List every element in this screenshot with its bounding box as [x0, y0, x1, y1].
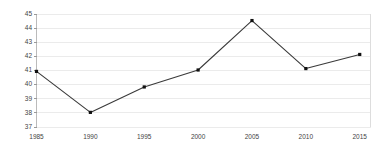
x-tick-label: 2000	[191, 133, 206, 140]
plot-background	[0, 0, 385, 148]
x-tick-label: 1995	[137, 133, 152, 140]
x-tick-label: 2005	[245, 133, 260, 140]
y-axis-tick-labels: 373839404142434445	[25, 10, 33, 130]
x-tick-label: 2010	[299, 133, 314, 140]
y-tick-label: 41	[25, 66, 33, 73]
y-tick-label: 45	[25, 10, 33, 17]
data-point-marker	[358, 53, 361, 56]
data-point-marker	[197, 68, 200, 71]
y-tick-label: 44	[25, 24, 33, 31]
y-tick-label: 38	[25, 109, 33, 116]
x-tick-label: 1985	[29, 133, 44, 140]
line-chart: 373839404142434445 198519901995200020052…	[0, 0, 385, 148]
y-tick-label: 42	[25, 52, 33, 59]
x-tick-label: 1990	[83, 133, 98, 140]
data-point-marker	[89, 111, 92, 114]
data-point-marker	[250, 19, 253, 22]
y-tick-label: 39	[25, 95, 33, 102]
data-point-marker	[35, 70, 38, 73]
chart-canvas: 373839404142434445 198519901995200020052…	[0, 0, 385, 148]
y-tick-label: 43	[25, 38, 33, 45]
y-tick-label: 37	[25, 123, 33, 130]
data-point-marker	[143, 85, 146, 88]
y-tick-label: 40	[25, 80, 33, 87]
x-tick-label: 2015	[352, 133, 367, 140]
data-point-marker	[304, 67, 307, 70]
